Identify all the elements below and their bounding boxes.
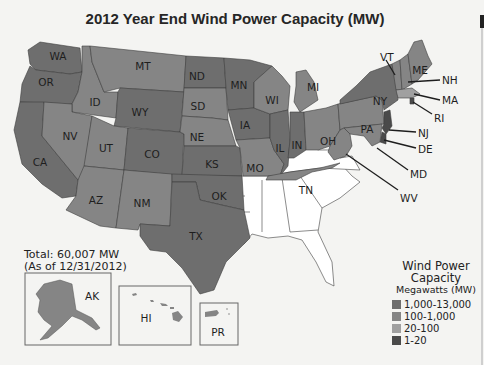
state-me [408, 40, 432, 84]
legend-item: 100-1,000 [392, 310, 484, 322]
legend-swatch [392, 324, 401, 333]
state-wy [114, 88, 184, 132]
label-nj: NJ [418, 127, 429, 139]
label-wa: WA [50, 50, 68, 62]
label-wi: WI [265, 94, 278, 106]
legend-label: 100-1,000 [404, 311, 455, 322]
total-capacity: Total: 60,007 MW (As of 12/31/2012) [24, 249, 127, 273]
state-in [288, 112, 306, 158]
label-ok: OK [211, 190, 227, 202]
legend-label: 1,000-13,000 [404, 299, 471, 310]
label-wy: WY [132, 106, 149, 118]
label-hi: HI [141, 312, 152, 324]
label-ny: NY [373, 95, 388, 107]
legend-swatch [392, 336, 401, 345]
label-ne: NE [190, 131, 205, 143]
label-az: AZ [89, 194, 103, 206]
legend-subtitle: Megawatts (MW) [388, 284, 484, 296]
label-vt: VT [380, 51, 394, 63]
label-mi: MI [307, 81, 319, 93]
label-pa: PA [361, 123, 375, 135]
legend-label: 20-100 [404, 323, 439, 334]
label-tx: TX [188, 230, 203, 242]
label-ca: CA [33, 156, 48, 168]
legend-label: 1-20 [404, 335, 427, 346]
label-sd: SD [191, 100, 206, 112]
legend-item: 1,000-13,000 [392, 298, 484, 310]
label-ks: KS [205, 158, 219, 170]
label-il: IL [276, 142, 285, 154]
page-edge-marker [480, 15, 484, 28]
legend-item: 20-100 [392, 322, 484, 334]
label-in-visible: IN [292, 139, 303, 151]
label-co: CO [144, 148, 160, 160]
label-pr: PR [211, 326, 225, 338]
label-nv: NV [62, 130, 78, 142]
label-ma: MA [442, 94, 459, 106]
label-nh: NH [442, 74, 458, 86]
label-de: DE [418, 143, 433, 155]
label-id: ID [89, 96, 100, 108]
state-ri [410, 98, 414, 104]
label-ri: RI [434, 112, 444, 124]
label-ak: AK [85, 290, 100, 302]
state-ne [180, 116, 236, 146]
legend: Wind Power Capacity Megawatts (MW) 1,000… [388, 260, 484, 346]
label-oh: OH [320, 135, 336, 147]
label-nm: NM [134, 197, 151, 209]
state-ma [396, 88, 420, 98]
label-mn: MN [231, 79, 248, 91]
label-or: OR [38, 76, 54, 88]
legend-swatch [392, 300, 401, 309]
legend-item: 1-20 [392, 334, 484, 346]
label-tn: TN [298, 184, 313, 196]
label-ut: UT [99, 142, 114, 154]
legend-title-line2: Capacity [388, 272, 484, 284]
puerto-rico-shape [205, 310, 219, 317]
legend-swatch [392, 312, 401, 321]
alaska-shape [36, 280, 100, 340]
label-nd: ND [189, 70, 205, 82]
label-ia: IA [240, 119, 251, 131]
label-me: ME [412, 64, 428, 76]
label-mt: MT [135, 60, 151, 72]
label-md: MD [410, 168, 427, 180]
inset-pr-box [200, 303, 238, 345]
label-wv: WV [400, 192, 418, 204]
total-date: (As of 12/31/2012) [24, 261, 127, 273]
label-mo: MO [246, 162, 263, 174]
page-edge-line [481, 28, 483, 365]
